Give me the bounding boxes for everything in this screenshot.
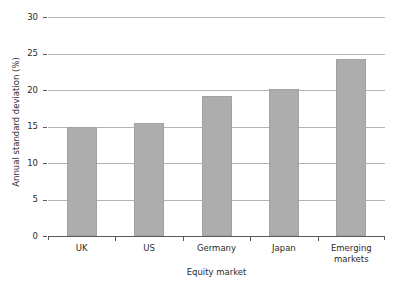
- gridline: [48, 17, 385, 18]
- y-tick-label: 25: [0, 49, 38, 58]
- y-tick-mark: [43, 163, 47, 164]
- y-tick-label: 20: [0, 86, 38, 95]
- x-tick-mark: [183, 236, 184, 241]
- bar-chart: Annual standard deviation (%) 3025201510…: [0, 0, 400, 288]
- y-tick-label: 10: [0, 159, 38, 168]
- y-tick-mark: [43, 127, 47, 128]
- x-axis-line: [48, 236, 385, 237]
- x-axis-title: Equity market: [48, 267, 385, 277]
- bar: [269, 89, 299, 236]
- gridline: [48, 54, 385, 55]
- y-tick-label: 15: [0, 122, 38, 131]
- gridline: [48, 90, 385, 91]
- x-tick-mark: [318, 236, 319, 241]
- x-tick-label-line: Emerging: [306, 243, 396, 254]
- x-axis-cap: [48, 236, 49, 240]
- y-tick-mark: [43, 200, 47, 201]
- y-tick-mark: [43, 54, 47, 55]
- y-tick-label: 30: [0, 13, 38, 22]
- y-tick-mark: [43, 17, 47, 18]
- y-tick-label: 5: [0, 195, 38, 204]
- bar: [202, 96, 232, 236]
- y-tick-label: 0: [0, 232, 38, 241]
- x-axis-cap: [384, 236, 385, 240]
- x-tick-label: Emergingmarkets: [306, 243, 396, 265]
- x-tick-mark: [250, 236, 251, 241]
- x-tick-label-line: markets: [306, 254, 396, 265]
- bar: [67, 127, 97, 237]
- bar: [134, 123, 164, 236]
- y-tick-mark: [43, 90, 47, 91]
- y-tick-mark: [43, 236, 47, 237]
- x-tick-mark: [115, 236, 116, 241]
- plot-area: [48, 17, 385, 236]
- bar: [336, 59, 366, 236]
